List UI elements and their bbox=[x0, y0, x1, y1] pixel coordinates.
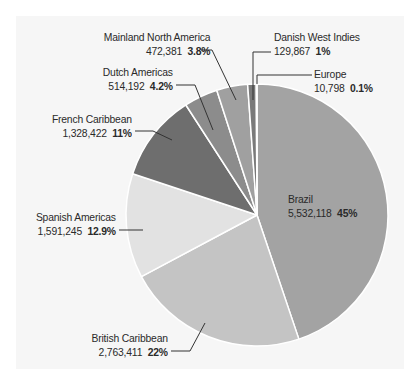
label-name: Europe bbox=[314, 67, 373, 81]
label-value: 1,328,422 bbox=[63, 127, 107, 139]
leader-line-europe bbox=[257, 75, 312, 84]
label-percent: 4.2% bbox=[150, 80, 173, 92]
label-percent: 0.1% bbox=[350, 82, 373, 94]
label-europe: Europe 10,7980.1% bbox=[314, 67, 373, 95]
label-values: 514,1924.2% bbox=[103, 79, 173, 93]
label-danish-west-indies: Danish West Indies 129,8671% bbox=[274, 30, 360, 58]
label-values: 5,532,11845% bbox=[288, 206, 357, 220]
label-name: Spanish Americas bbox=[36, 210, 116, 224]
label-values: 2,763,41122% bbox=[92, 345, 168, 359]
label-name: British Caribbean bbox=[92, 331, 168, 345]
label-percent: 3.8% bbox=[187, 45, 210, 57]
label-value: 10,798 bbox=[314, 82, 345, 94]
label-name: Danish West Indies bbox=[274, 30, 360, 44]
label-british-caribbean: British Caribbean 2,763,41122% bbox=[92, 331, 168, 359]
label-percent: 22% bbox=[148, 346, 168, 358]
label-values: 1,591,24512.9% bbox=[36, 224, 116, 238]
label-value: 472,381 bbox=[146, 45, 182, 57]
label-mainland-north-america: Mainland North America 472,3813.8% bbox=[104, 30, 210, 58]
label-values: 472,3813.8% bbox=[104, 44, 210, 58]
label-name: Brazil bbox=[288, 192, 357, 206]
label-value: 1,591,245 bbox=[38, 225, 82, 237]
label-brazil: Brazil 5,532,11845% bbox=[288, 192, 357, 220]
pie-slice-europe bbox=[256, 84, 257, 215]
label-percent: 11% bbox=[112, 127, 132, 139]
label-french-caribbean: French Caribbean 1,328,42211% bbox=[52, 112, 132, 140]
label-values: 1,328,42211% bbox=[52, 126, 132, 140]
label-name: French Caribbean bbox=[52, 112, 132, 126]
label-percent: 1% bbox=[316, 45, 331, 57]
label-value: 5,532,118 bbox=[288, 207, 332, 219]
label-name: Dutch Americas bbox=[103, 65, 173, 79]
label-value: 129,867 bbox=[274, 45, 310, 57]
label-value: 514,192 bbox=[109, 80, 145, 92]
label-percent: 45% bbox=[337, 207, 357, 219]
label-dutch-americas: Dutch Americas 514,1924.2% bbox=[103, 65, 173, 93]
label-percent: 12.9% bbox=[88, 225, 116, 237]
label-spanish-americas: Spanish Americas 1,591,24512.9% bbox=[36, 210, 116, 238]
label-values: 10,7980.1% bbox=[314, 81, 373, 95]
label-values: 129,8671% bbox=[274, 44, 360, 58]
label-value: 2,763,411 bbox=[99, 346, 143, 358]
label-name: Mainland North America bbox=[104, 30, 210, 44]
